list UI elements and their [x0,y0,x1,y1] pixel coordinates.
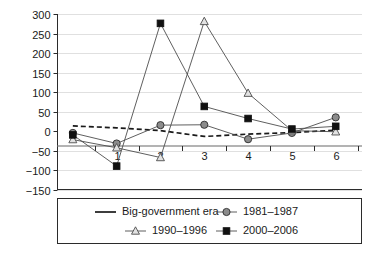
marker-2000-2006 [332,123,339,130]
x-tick-label: 3 [201,150,207,162]
marker-1981-1987 [244,136,251,143]
marker-1981-1987 [201,121,208,128]
y-tick-label: 150 [32,68,50,80]
y-tick-label: 100 [32,87,50,99]
y-tick-label: 50 [38,107,50,119]
x-tick-label: 5 [289,150,295,162]
marker-2000-2006 [289,126,296,133]
chart-container: 300250200150100500−50−100−150 123456 Big… [0,0,377,255]
marker-2000-2006 [201,103,208,110]
legend-marker-2000-2006 [223,228,230,235]
marker-2000-2006 [245,115,252,122]
marker-1981-1987 [332,114,339,121]
legend-marker-1981-1987 [223,208,230,215]
y-tick-label: 300 [32,9,50,21]
y-tick-label: −150 [26,185,51,197]
marker-2000-2006 [113,163,120,170]
y-tick-label: −100 [26,165,51,177]
legend-label-1981-1987: 1981–1987 [243,205,298,217]
y-tick-label: 250 [32,29,50,41]
y-tick-label: 0 [44,126,50,138]
legend-label-1990-1996: 1990–1996 [152,224,207,236]
x-tick-label: 4 [245,150,251,162]
line-chart: 300250200150100500−50−100−150 123456 Big… [0,0,377,255]
marker-1981-1987 [157,122,164,129]
x-tick-label: 6 [333,150,339,162]
legend-label-2000-2006: 2000–2006 [243,224,298,236]
legend-label-big-government-era: Big-government era [122,205,219,217]
y-tick-label: −50 [32,146,51,158]
marker-2000-2006 [70,132,77,139]
marker-2000-2006 [157,20,164,27]
y-tick-label: 200 [32,48,50,60]
